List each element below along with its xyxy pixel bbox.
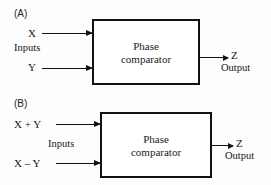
panel-a-inputs-group-label: Inputs: [14, 42, 40, 53]
panel-b-input-diff-label: X – Y: [14, 158, 40, 169]
panel-b-box-line2: comparator: [102, 146, 210, 158]
panel-b-input-diff-arrow: [56, 163, 100, 164]
panel-b-box-line1: Phase: [102, 133, 210, 145]
panel-a-input-y-label: Y: [28, 62, 36, 73]
panel-b-output-caption: Output: [225, 150, 254, 161]
panel-a-phase-comparator-box: Phase comparator: [92, 19, 200, 85]
block-diagram-figure: (A) X Inputs Y Phase comparator Z Output…: [0, 0, 271, 185]
panel-b-label: (B): [14, 99, 27, 109]
panel-a-input-y-arrow: [42, 68, 92, 69]
panel-a-output-caption: Output: [221, 62, 250, 73]
panel-a-label: (A): [14, 9, 27, 19]
panel-a-box-line2: comparator: [94, 53, 198, 65]
panel-a-input-x-label: X: [28, 28, 36, 39]
panel-a-output-z-label: Z: [231, 50, 238, 61]
panel-a-input-x-arrow: [42, 33, 92, 34]
panel-b-input-sum-arrow: [56, 124, 100, 125]
panel-b-input-sum-label: X + Y: [14, 119, 41, 130]
panel-b-output-arrow: [212, 145, 233, 146]
panel-a-box-line1: Phase: [94, 40, 198, 52]
panel-b-inputs-group-label: Inputs: [48, 138, 74, 149]
panel-b-phase-comparator-box: Phase comparator: [100, 112, 212, 178]
panel-b-output-z-label: Z: [236, 138, 243, 149]
panel-a-output-arrow: [200, 57, 228, 58]
